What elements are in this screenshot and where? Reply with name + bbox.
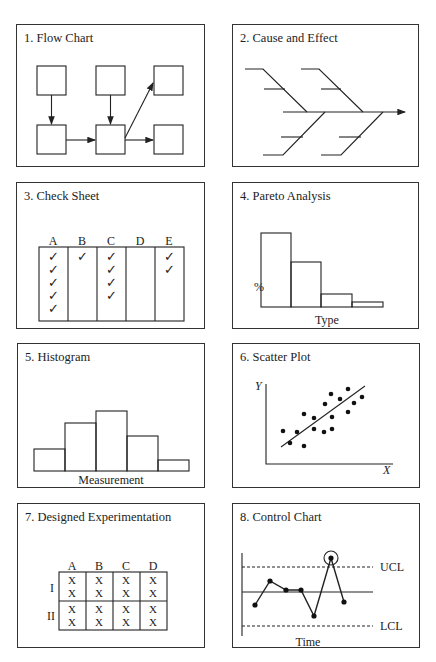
lcl-label: LCL [380,619,403,633]
y-axis-label: Y [255,379,263,393]
svg-text:X: X [68,616,76,628]
svg-text:✓: ✓ [106,288,117,303]
process-box [154,66,183,95]
column-header: C [122,559,130,573]
x-axis-label: X [382,463,391,477]
panel-control-chart: 8. Control Chart UCL LCL Time [232,503,420,648]
svg-text:X: X [149,574,157,586]
svg-text:X: X [95,616,103,628]
process-box [96,66,125,95]
svg-text:X: X [95,603,103,615]
svg-text:X: X [95,587,103,599]
column-header: A [49,234,58,248]
panel-histogram: 5. Histogram Measurement [17,343,205,488]
process-box [96,125,125,154]
fishbone-diagram [233,25,420,168]
experiment-matrix: A B C D I II XXXX XXXX XXXX XXXX [18,504,206,649]
column-header: D [136,234,145,248]
column-header: A [68,559,77,573]
flow-chart-diagram [17,25,206,168]
row-header: II [47,609,55,623]
panel-cause-and-effect: 2. Cause and Effect [232,24,419,167]
check-sheet-table: A B C D E ✓✓✓✓✓ ✓ ✓✓✓✓ ✓✓ [17,183,206,330]
x-axis-label: Type [315,313,339,327]
pareto-chart: % Type [233,183,420,330]
column-header: B [95,559,103,573]
x-axis-label: Time [296,635,321,649]
column-header: E [165,234,172,248]
svg-text:X: X [68,574,76,586]
svg-text:X: X [149,587,157,599]
svg-text:X: X [122,603,130,615]
svg-text:X: X [122,616,130,628]
svg-text:X: X [149,616,157,628]
control-chart: UCL LCL Time [233,504,421,649]
panel-flow-chart: 1. Flow Chart [16,24,205,167]
svg-text:✓: ✓ [164,262,175,277]
svg-text:X: X [95,574,103,586]
process-box [37,125,66,154]
svg-text:✓: ✓ [77,249,88,264]
ucl-label: UCL [380,560,404,574]
process-box [154,125,183,154]
process-box [37,66,66,95]
svg-text:✓: ✓ [48,301,59,316]
x-axis-label: Measurement [78,473,144,487]
svg-text:X: X [122,574,130,586]
panel-check-sheet: 3. Check Sheet A B C D E ✓✓✓✓✓ ✓ ✓✓✓✓ ✓✓ [16,182,205,329]
panel-scatter-plot: 6. Scatter Plot Y X [232,343,420,488]
panel-pareto-analysis: 4. Pareto Analysis % Type [232,182,419,329]
column-header: C [107,234,115,248]
svg-text:X: X [68,603,76,615]
svg-text:X: X [149,603,157,615]
panel-designed-experimentation: 7. Designed Experimentation A B C D I II… [17,503,205,648]
column-header: D [149,559,158,573]
svg-text:X: X [68,587,76,599]
column-header: B [78,234,86,248]
row-header: I [50,581,54,595]
svg-text:X: X [122,587,130,599]
y-axis-label: % [254,280,264,294]
histogram-chart: Measurement [18,344,206,489]
scatter-chart: Y X [233,344,421,489]
